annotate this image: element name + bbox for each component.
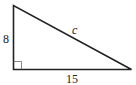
horizontal-leg-label: 15 — [66, 72, 78, 85]
hypotenuse-label: c — [72, 23, 78, 37]
right-angle-marker — [14, 62, 22, 70]
triangle — [14, 6, 132, 70]
right-triangle-diagram: 8 c 15 — [0, 0, 136, 85]
vertical-leg-label: 8 — [3, 32, 9, 46]
